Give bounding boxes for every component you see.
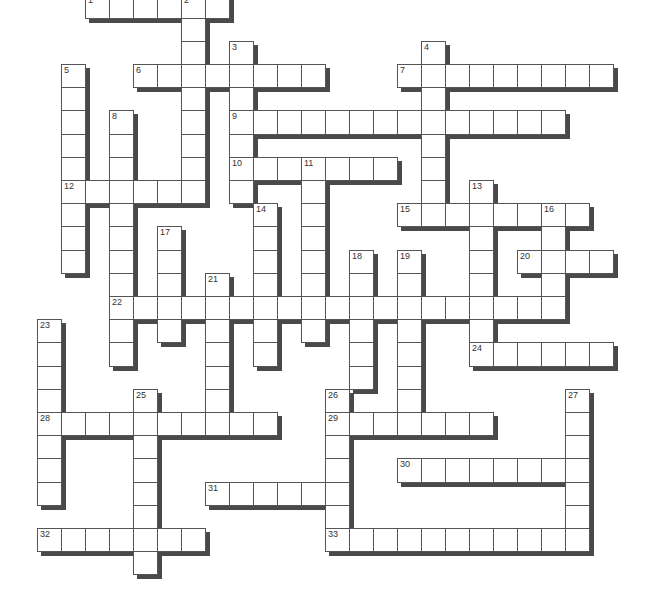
crossword-cell[interactable] [205,64,230,88]
crossword-cell[interactable]: 16 [541,203,566,227]
crossword-cell[interactable] [445,528,470,552]
crossword-cell[interactable] [421,412,446,436]
crossword-cell[interactable] [421,64,446,88]
crossword-cell[interactable] [133,458,158,482]
crossword-cell[interactable]: 19 [397,250,422,274]
crossword-cell[interactable] [181,41,206,65]
crossword-cell[interactable] [253,157,278,181]
crossword-cell[interactable] [277,110,302,134]
crossword-cell[interactable] [181,87,206,111]
crossword-cell[interactable] [517,110,542,134]
crossword-cell[interactable] [253,64,278,88]
crossword-cell[interactable] [253,412,278,436]
crossword-cell[interactable]: 30 [397,458,422,482]
crossword-cell[interactable] [277,64,302,88]
crossword-cell[interactable]: 17 [157,226,182,250]
crossword-cell[interactable] [469,296,494,320]
crossword-cell[interactable] [397,342,422,366]
crossword-cell[interactable] [349,342,374,366]
crossword-cell[interactable] [397,528,422,552]
crossword-cell[interactable]: 23 [37,319,62,343]
crossword-cell[interactable] [541,110,566,134]
crossword-cell[interactable] [61,250,86,274]
crossword-cell[interactable] [85,412,110,436]
crossword-cell[interactable] [157,319,182,343]
crossword-cell[interactable] [181,110,206,134]
crossword-cell[interactable] [349,366,374,390]
crossword-cell[interactable] [181,412,206,436]
crossword-cell[interactable] [157,296,182,320]
crossword-cell[interactable] [565,342,590,366]
crossword-cell[interactable] [109,250,134,274]
crossword-cell[interactable] [205,0,230,19]
crossword-cell[interactable] [397,366,422,390]
crossword-cell[interactable] [301,273,326,297]
crossword-cell[interactable] [205,342,230,366]
crossword-cell[interactable] [565,203,590,227]
crossword-cell[interactable] [229,87,254,111]
crossword-cell[interactable] [373,412,398,436]
crossword-cell[interactable]: 25 [133,389,158,413]
crossword-cell[interactable] [37,458,62,482]
crossword-cell[interactable] [181,180,206,204]
crossword-cell[interactable] [373,296,398,320]
crossword-cell[interactable] [133,505,158,529]
crossword-cell[interactable] [61,157,86,181]
crossword-cell[interactable] [301,203,326,227]
crossword-cell[interactable]: 8 [109,110,134,134]
crossword-cell[interactable]: 18 [349,250,374,274]
crossword-cell[interactable] [157,64,182,88]
crossword-cell[interactable]: 1 [85,0,110,19]
crossword-cell[interactable] [565,250,590,274]
crossword-cell[interactable]: 13 [469,180,494,204]
crossword-cell[interactable] [541,226,566,250]
crossword-cell[interactable] [109,273,134,297]
crossword-cell[interactable]: 11 [301,157,326,181]
crossword-cell[interactable]: 12 [61,180,86,204]
crossword-cell[interactable] [565,528,590,552]
crossword-cell[interactable] [445,412,470,436]
crossword-cell[interactable] [277,482,302,506]
crossword-cell[interactable] [109,134,134,158]
crossword-cell[interactable] [565,482,590,506]
crossword-cell[interactable] [349,157,374,181]
crossword-cell[interactable]: 27 [565,389,590,413]
crossword-cell[interactable] [277,296,302,320]
crossword-cell[interactable] [109,157,134,181]
crossword-cell[interactable] [133,435,158,459]
crossword-cell[interactable] [469,64,494,88]
crossword-cell[interactable] [181,528,206,552]
crossword-cell[interactable] [421,110,446,134]
crossword-cell[interactable] [421,203,446,227]
crossword-cell[interactable] [517,342,542,366]
crossword-cell[interactable] [181,18,206,42]
crossword-cell[interactable] [349,319,374,343]
crossword-cell[interactable] [37,389,62,413]
crossword-cell[interactable] [517,203,542,227]
crossword-cell[interactable] [205,366,230,390]
crossword-cell[interactable] [301,296,326,320]
crossword-cell[interactable] [229,412,254,436]
crossword-cell[interactable] [157,528,182,552]
crossword-cell[interactable] [61,226,86,250]
crossword-cell[interactable] [157,412,182,436]
crossword-cell[interactable] [205,412,230,436]
crossword-cell[interactable] [253,273,278,297]
crossword-cell[interactable] [469,273,494,297]
crossword-cell[interactable] [565,505,590,529]
crossword-cell[interactable] [301,250,326,274]
crossword-cell[interactable] [541,296,566,320]
crossword-cell[interactable] [253,110,278,134]
crossword-cell[interactable] [157,180,182,204]
crossword-cell[interactable] [85,528,110,552]
crossword-cell[interactable] [349,110,374,134]
crossword-cell[interactable] [517,528,542,552]
crossword-cell[interactable]: 31 [205,482,230,506]
crossword-cell[interactable] [325,296,350,320]
crossword-cell[interactable] [61,134,86,158]
crossword-cell[interactable] [445,110,470,134]
crossword-cell[interactable] [589,250,614,274]
crossword-cell[interactable]: 29 [325,412,350,436]
crossword-cell[interactable] [397,296,422,320]
crossword-cell[interactable] [325,435,350,459]
